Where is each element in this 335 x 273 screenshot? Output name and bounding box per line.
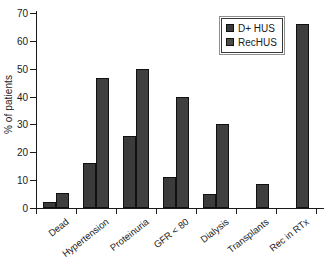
- bar: [43, 202, 56, 208]
- bar: [203, 194, 216, 208]
- y-axis-tick-label: 50: [0, 63, 28, 74]
- legend-item: D+ HUS: [226, 21, 277, 35]
- legend-item: RecHUS: [226, 35, 277, 49]
- x-axis-tick-labels: DeadHypertensionProteinuriaGFR < 80Dialy…: [0, 214, 335, 273]
- legend-swatch-icon: [226, 24, 234, 32]
- legend: D+ HUS RecHUS: [221, 18, 283, 53]
- x-axis-tick-label: Dialysis: [198, 216, 231, 245]
- bar: [176, 97, 189, 208]
- y-axis-tick-label: 40: [0, 91, 28, 102]
- x-axis-tick-label: Proteinuria: [108, 216, 151, 253]
- x-axis-tick-label: Dead: [46, 216, 71, 239]
- legend-item-label: RecHUS: [238, 37, 277, 48]
- bar: [96, 78, 109, 208]
- bar: [216, 124, 229, 208]
- bar: [136, 69, 149, 208]
- y-axis-tick-label: 60: [0, 35, 28, 46]
- legend-item-label: D+ HUS: [238, 23, 275, 34]
- bar: [296, 24, 309, 208]
- bar: [123, 136, 136, 208]
- bar: [56, 193, 69, 208]
- y-axis-tick-label: 70: [0, 8, 28, 19]
- legend-swatch-icon: [226, 38, 234, 46]
- y-axis-tick-label: 0: [0, 203, 28, 214]
- x-axis-tick-label: GFR < 80: [151, 216, 190, 250]
- x-axis-line: [36, 208, 324, 209]
- y-axis-tick-label: 30: [0, 119, 28, 130]
- bar: [256, 184, 269, 208]
- x-axis-tick-label: Rec in RTx: [267, 216, 311, 253]
- bar: [163, 177, 176, 208]
- bar-chart: % of patients 010203040506070 DeadHypert…: [0, 0, 335, 273]
- bar: [83, 163, 96, 208]
- y-axis-tick-label: 10: [0, 175, 28, 186]
- x-axis-tick-label: Transplants: [225, 216, 271, 255]
- y-axis-tick-label: 20: [0, 147, 28, 158]
